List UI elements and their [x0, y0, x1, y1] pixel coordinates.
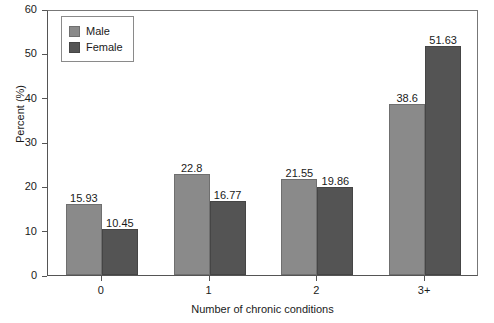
y-tick-label: 20: [25, 181, 37, 192]
bar-female-3plus: [425, 46, 461, 275]
bar-value-label: 21.55: [286, 167, 314, 179]
x-tick-label-0: 0: [98, 284, 104, 296]
x-axis-title: Number of chronic conditions: [47, 303, 478, 315]
x-tick-label-3plus: 3+: [418, 284, 431, 296]
bar-value-label: 15.93: [70, 192, 98, 204]
bar-value-label: 10.45: [106, 217, 134, 229]
bar-value-label: 19.86: [322, 175, 350, 187]
legend-swatch-icon: [69, 26, 80, 37]
bar-value-label: 22.8: [181, 162, 202, 174]
legend-item-female: Female: [69, 39, 123, 55]
bar-male-2: [281, 179, 317, 275]
y-tick-label: 10: [25, 226, 37, 237]
bar-female-2: [317, 187, 353, 275]
x-tick-mark: [209, 276, 210, 281]
bar-female-1: [210, 201, 246, 275]
bar-value-label: 51.63: [429, 34, 457, 46]
y-tick-label: 40: [25, 93, 37, 104]
x-tick-label-2: 2: [313, 284, 319, 296]
x-tick-mark: [101, 276, 102, 281]
x-tick-mark: [316, 276, 317, 281]
bar-chart-figure: 0102030405060 Percent (%) 15.9310.4522.8…: [0, 0, 494, 323]
x-tick-mark: [424, 276, 425, 281]
bar-value-label: 38.6: [396, 92, 417, 104]
y-tick-label: 60: [25, 4, 37, 15]
bar-male-3plus: [389, 104, 425, 275]
y-axis-title: Percent (%): [14, 39, 26, 189]
y-tick-label: 0: [31, 270, 37, 281]
y-tick-label: 30: [25, 137, 37, 148]
bar-male-0: [66, 204, 102, 275]
bar-value-label: 16.77: [214, 189, 242, 201]
legend-swatch-icon: [69, 42, 80, 53]
bar-male-1: [174, 174, 210, 275]
bar-female-0: [102, 229, 138, 275]
chart-legend: MaleFemale: [61, 16, 134, 62]
legend-item-male: Male: [69, 23, 123, 39]
legend-label: Female: [86, 42, 123, 53]
x-tick-label-1: 1: [206, 284, 212, 296]
y-tick-label: 50: [25, 48, 37, 59]
legend-label: Male: [86, 26, 110, 37]
